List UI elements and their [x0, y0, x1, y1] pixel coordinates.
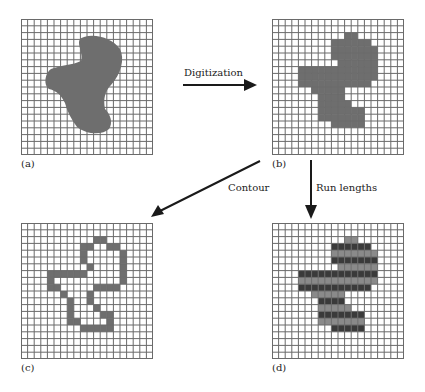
run-lengths-label: Run lengths: [316, 182, 377, 193]
contour-label: Contour: [228, 182, 269, 193]
arrows-layer: [0, 0, 425, 392]
digitization-arrow-icon: [183, 79, 257, 91]
digitization-label: Digitization: [184, 67, 243, 78]
